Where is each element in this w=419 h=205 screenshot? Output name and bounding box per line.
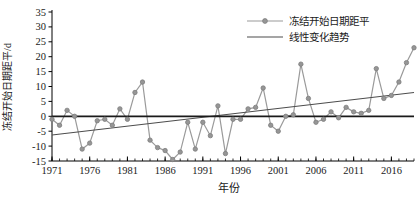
data-point — [163, 148, 167, 152]
data-point — [231, 117, 235, 121]
legend-entry-trend: 线性变化趋势 — [247, 31, 350, 43]
data-point — [246, 107, 250, 111]
data-point — [148, 138, 152, 142]
data-point — [88, 141, 92, 145]
legend: 冻结开始日期距平 线性变化趋势 — [247, 15, 369, 43]
y-tick-label: 35 — [36, 7, 47, 18]
data-point — [133, 90, 137, 94]
data-point — [276, 129, 280, 133]
data-point — [359, 111, 363, 115]
data-point — [125, 117, 129, 121]
y-tick-label: 20 — [36, 51, 47, 62]
x-axis-label: 年份 — [218, 181, 240, 194]
data-point — [57, 123, 61, 127]
data-point — [404, 60, 408, 64]
data-point — [216, 104, 220, 108]
x-tick-label: 1981 — [117, 165, 138, 176]
x-tick-label: 2006 — [305, 165, 326, 176]
y-tick-label: 5 — [41, 96, 46, 107]
data-point — [382, 96, 386, 100]
data-point — [208, 133, 212, 137]
legend-label-series: 冻结开始日期距平 — [289, 15, 369, 27]
data-point — [367, 108, 371, 112]
y-tick-label: 10 — [36, 81, 47, 92]
x-tick-label: 1971 — [42, 165, 63, 176]
y-tick-label: 25 — [36, 36, 47, 47]
data-point — [110, 123, 114, 127]
data-point — [336, 116, 340, 120]
data-point — [351, 110, 355, 114]
x-tick-label: 2011 — [343, 165, 364, 176]
legend-label-trend: 线性变化趋势 — [289, 31, 350, 43]
y-axis-label: 冻结开始日期距平/d — [1, 43, 13, 131]
y-tick-label: 0 — [41, 111, 46, 122]
data-point — [412, 46, 416, 50]
data-point — [314, 120, 318, 124]
data-point — [95, 119, 99, 123]
data-point — [269, 123, 273, 127]
data-point — [389, 93, 393, 97]
data-point — [291, 113, 295, 117]
data-point — [72, 114, 76, 118]
y-tick-label: -10 — [32, 141, 46, 152]
series-line — [52, 48, 414, 160]
data-point — [397, 80, 401, 84]
data-point — [140, 80, 144, 84]
data-point — [186, 120, 190, 124]
x-tick-label: 1996 — [230, 165, 251, 176]
data-point — [65, 108, 69, 112]
data-point — [253, 105, 257, 109]
x-tick-label: 2016 — [381, 165, 402, 176]
data-point — [344, 105, 348, 109]
data-point — [170, 157, 174, 161]
y-tick-label: -5 — [37, 126, 46, 137]
data-point — [178, 150, 182, 154]
data-point — [223, 151, 227, 155]
data-point — [261, 86, 265, 90]
data-point — [329, 110, 333, 114]
x-tick-label: 1991 — [192, 165, 213, 176]
data-point — [118, 107, 122, 111]
data-point — [321, 117, 325, 121]
y-tick-label: 30 — [36, 21, 47, 32]
data-point — [284, 114, 288, 118]
y-tick-label: 15 — [36, 66, 47, 77]
data-point — [306, 96, 310, 100]
data-point — [238, 117, 242, 121]
anomaly-line-chart: -15-10-505101520253035197119761981198619… — [0, 0, 419, 205]
data-point — [374, 66, 378, 70]
x-tick-label: 1976 — [79, 165, 100, 176]
data-point — [155, 145, 159, 149]
data-point — [193, 147, 197, 151]
data-point — [299, 62, 303, 66]
data-point — [50, 117, 54, 121]
data-point — [201, 120, 205, 124]
x-tick-label: 1986 — [155, 165, 176, 176]
plot-area: -15-10-505101520253035197119761981198619… — [32, 7, 416, 177]
freeze-start-date-anomaly-figure: -15-10-505101520253035197119761981198619… — [0, 0, 419, 205]
data-point — [80, 147, 84, 151]
x-tick-label: 2001 — [268, 165, 289, 176]
data-point — [103, 117, 107, 121]
legend-entry-series: 冻结开始日期距平 — [247, 15, 369, 27]
